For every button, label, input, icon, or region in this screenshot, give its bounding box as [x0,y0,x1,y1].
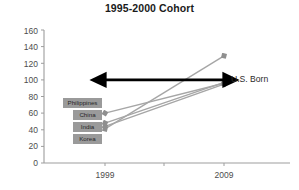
plot-area [0,0,299,190]
series-line-philippines [105,83,224,113]
series-line-india [105,56,224,129]
series-label-india: India [73,122,102,132]
series-label-korea: Korea [73,134,102,144]
series-label-philippines: Philippines [63,98,102,108]
reference-line-label-us-born: U.S. Born [231,74,268,84]
series-line-korea [105,84,224,126]
series-line-china [105,82,224,123]
chart-container: 1995-2000 Cohort 160 140 120 100 80 60 4… [0,0,299,190]
series-label-china: China [73,110,102,120]
